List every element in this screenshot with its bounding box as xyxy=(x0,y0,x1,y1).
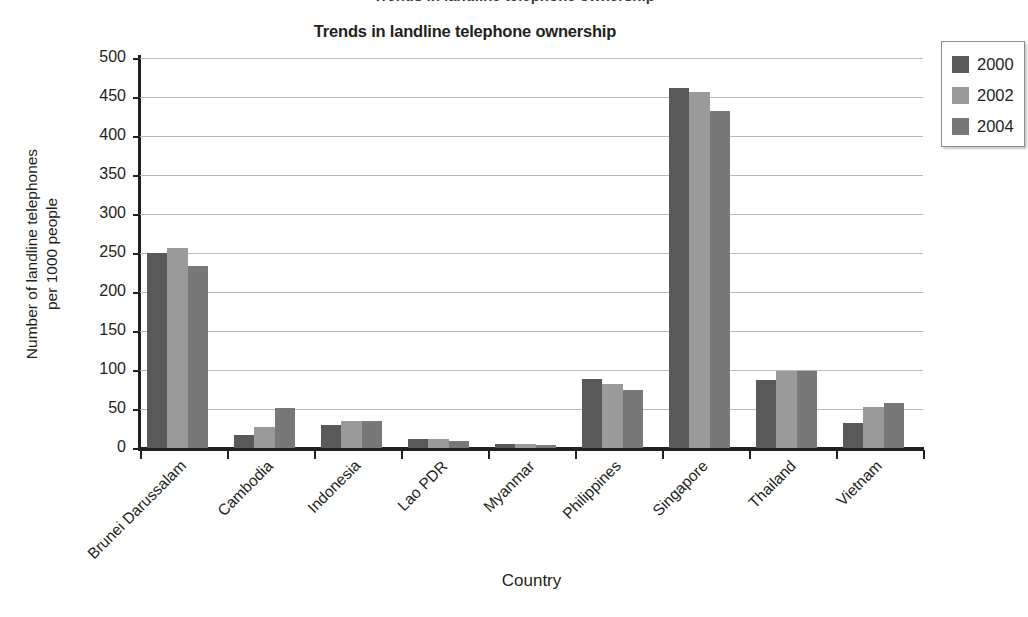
bar xyxy=(602,384,623,448)
bar xyxy=(495,444,516,448)
x-category-label: Vietnam xyxy=(833,457,886,510)
legend-swatch xyxy=(952,87,969,104)
y-tick-label: 250 xyxy=(82,243,126,261)
bar xyxy=(234,435,255,448)
bar xyxy=(756,380,777,448)
y-tick-mark xyxy=(133,448,140,450)
legend-label: 2002 xyxy=(977,87,1014,104)
x-category-label: Thailand xyxy=(745,457,800,512)
bar xyxy=(582,379,603,448)
legend-swatch xyxy=(952,118,969,135)
x-tick-mark xyxy=(575,450,577,459)
bar xyxy=(710,111,731,448)
bar xyxy=(669,88,690,448)
bar xyxy=(536,445,557,448)
y-axis-title: Number of landline telephones per 1000 p… xyxy=(14,58,70,450)
plot-area xyxy=(140,58,923,448)
bar xyxy=(449,441,470,448)
legend-item[interactable]: 2000 xyxy=(952,53,1014,75)
x-category-label: Indonesia xyxy=(304,457,364,517)
y-axis-title-line2: per 1000 people xyxy=(42,149,62,359)
x-category-label: Philippines xyxy=(559,457,625,523)
x-category-label: Singapore xyxy=(649,457,712,520)
y-tick-mark xyxy=(133,175,140,177)
bar xyxy=(147,253,168,448)
clipped-header-text: Trends in landline telephone ownership xyxy=(0,0,1028,4)
bar xyxy=(188,266,209,448)
bar xyxy=(515,444,536,448)
legend: 200020022004 xyxy=(941,41,1025,147)
y-tick-label: 450 xyxy=(82,87,126,105)
y-axis-title-line1: Number of landline telephones xyxy=(23,149,40,359)
bar xyxy=(321,425,342,448)
bar xyxy=(341,421,362,448)
y-tick-mark xyxy=(133,214,140,216)
y-tick-mark xyxy=(133,331,140,333)
x-tick-mark xyxy=(314,450,316,459)
legend-label: 2004 xyxy=(977,118,1014,135)
bar xyxy=(776,371,797,448)
bar xyxy=(428,439,449,448)
y-tick-label: 350 xyxy=(82,165,126,183)
bar xyxy=(843,423,864,448)
x-tick-mark xyxy=(488,450,490,459)
x-category-label: Cambodia xyxy=(214,457,277,520)
legend-swatch xyxy=(952,56,969,73)
legend-item[interactable]: 2002 xyxy=(952,84,1014,106)
chart-title: Trends in landline telephone ownership xyxy=(0,22,930,41)
y-tick-label: 0 xyxy=(82,438,126,456)
y-tick-label: 200 xyxy=(82,282,126,300)
bar xyxy=(275,408,296,448)
y-tick-label: 50 xyxy=(82,399,126,417)
bar xyxy=(623,390,644,448)
y-tick-mark xyxy=(133,253,140,255)
bar xyxy=(408,439,429,448)
y-tick-mark xyxy=(133,292,140,294)
legend-item[interactable]: 2004 xyxy=(952,115,1014,137)
y-tick-mark xyxy=(133,136,140,138)
bar xyxy=(884,403,905,448)
y-tick-mark xyxy=(133,370,140,372)
y-tick-label: 500 xyxy=(82,48,126,66)
x-axis-title: Country xyxy=(140,571,923,591)
bar xyxy=(362,421,383,448)
x-category-label: Lao PDR xyxy=(394,457,451,514)
y-tick-label: 100 xyxy=(82,360,126,378)
y-tick-mark xyxy=(133,97,140,99)
bar xyxy=(863,407,884,448)
x-tick-mark xyxy=(923,450,925,459)
x-category-label: Myanmar xyxy=(480,457,538,515)
clipped-header-strip: Trends in landline telephone ownership xyxy=(0,0,1028,10)
x-tick-mark xyxy=(749,450,751,459)
bar xyxy=(689,92,710,448)
x-tick-mark xyxy=(401,450,403,459)
y-tick-mark xyxy=(133,409,140,411)
x-tick-mark xyxy=(662,450,664,459)
x-category-label: Brunei Darussalam xyxy=(84,457,190,563)
x-tick-mark xyxy=(227,450,229,459)
y-tick-label: 400 xyxy=(82,126,126,144)
y-tick-mark xyxy=(133,58,140,60)
bar xyxy=(167,248,188,448)
x-tick-mark xyxy=(140,450,142,459)
legend-label: 2000 xyxy=(977,56,1014,73)
y-tick-label: 300 xyxy=(82,204,126,222)
bar xyxy=(254,427,275,448)
y-tick-label: 150 xyxy=(82,321,126,339)
x-tick-mark xyxy=(836,450,838,459)
bar xyxy=(797,371,818,448)
